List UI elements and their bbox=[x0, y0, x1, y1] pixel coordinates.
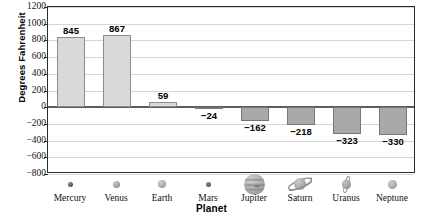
bar-neptune bbox=[379, 107, 407, 135]
y-axis-tick-mark bbox=[44, 7, 48, 8]
bar-value-label: 867 bbox=[109, 23, 125, 34]
planet-icon-cell bbox=[231, 173, 277, 195]
y-axis-tick-label: −200 bbox=[10, 118, 46, 128]
gridline bbox=[48, 157, 414, 158]
bar-mars bbox=[195, 107, 223, 109]
x-axis-tick-label-jupiter: Jupiter bbox=[241, 193, 267, 203]
y-axis-tick-labels: 120010008006004002000−200−400−600−800 bbox=[6, 0, 46, 216]
y-axis-tick-label: 1000 bbox=[10, 18, 46, 28]
bar-chart: Degrees Fahrenheit 120010008006004002000… bbox=[0, 0, 423, 216]
gridline bbox=[48, 141, 414, 142]
uranus-icon bbox=[336, 174, 357, 195]
bar-value-label: −330 bbox=[382, 136, 403, 147]
plot-area: 84586759−24−162−218−323−330 bbox=[47, 6, 415, 173]
y-axis-tick-mark bbox=[44, 91, 48, 92]
bar-value-label: −162 bbox=[244, 122, 265, 133]
planet-icon-cell bbox=[93, 173, 139, 195]
y-axis-tick-label: 200 bbox=[10, 85, 46, 95]
y-axis-tick-label: −600 bbox=[10, 151, 46, 161]
gridline bbox=[48, 24, 414, 25]
bar-value-label: 845 bbox=[63, 25, 79, 36]
bar-value-label: −218 bbox=[290, 126, 311, 137]
planet-icon-cell bbox=[47, 173, 93, 195]
neptune-icon bbox=[382, 174, 403, 195]
x-axis-tick-label-saturn: Saturn bbox=[288, 193, 313, 203]
y-axis-tick-mark bbox=[44, 57, 48, 58]
y-axis-tick-label: −400 bbox=[10, 135, 46, 145]
gridline bbox=[48, 7, 414, 8]
earth-icon bbox=[152, 174, 172, 194]
bar-saturn bbox=[287, 107, 315, 125]
y-axis-tick-label: 400 bbox=[10, 68, 46, 78]
y-axis-tick-mark bbox=[44, 40, 48, 41]
y-axis-tick-label: −800 bbox=[10, 168, 46, 178]
y-axis-tick-mark bbox=[44, 157, 48, 158]
x-axis-tick-label-uranus: Uranus bbox=[332, 193, 359, 203]
planet-icon-cell bbox=[185, 173, 231, 195]
bar-venus bbox=[103, 35, 131, 107]
y-axis-tick-label: 0 bbox=[10, 101, 46, 111]
planet-icon-strip bbox=[47, 173, 415, 195]
x-axis-tick-label-mars: Mars bbox=[198, 193, 218, 203]
planet-icon-cell bbox=[323, 173, 369, 195]
mars-icon bbox=[200, 176, 217, 193]
bar-value-label: 59 bbox=[158, 90, 169, 101]
bar-uranus bbox=[333, 107, 361, 134]
y-axis-tick-label: 600 bbox=[10, 51, 46, 61]
planet-icon-cell bbox=[277, 173, 323, 195]
x-axis-tick-label-venus: Venus bbox=[104, 193, 127, 203]
bar-value-label: −24 bbox=[201, 110, 217, 121]
bar-value-label: −323 bbox=[336, 135, 357, 146]
y-axis-tick-mark bbox=[44, 141, 48, 142]
y-axis-tick-mark bbox=[44, 24, 48, 25]
x-axis-tick-label-neptune: Neptune bbox=[376, 193, 408, 203]
mercury-icon bbox=[62, 176, 79, 193]
planet-icon-cell bbox=[139, 173, 185, 195]
x-axis-tick-label-mercury: Mercury bbox=[54, 193, 87, 203]
bar-mercury bbox=[57, 37, 85, 108]
y-axis-tick-label: 1200 bbox=[10, 1, 46, 11]
y-axis-tick-label: 800 bbox=[10, 34, 46, 44]
bar-jupiter bbox=[241, 107, 269, 121]
y-axis-tick-mark bbox=[44, 74, 48, 75]
venus-icon bbox=[107, 175, 126, 194]
bar-earth bbox=[149, 102, 177, 107]
x-axis-title: Planet bbox=[0, 203, 423, 214]
planet-icon-cell bbox=[369, 173, 415, 195]
x-axis-tick-label-earth: Earth bbox=[152, 193, 173, 203]
y-axis-tick-mark bbox=[44, 124, 48, 125]
